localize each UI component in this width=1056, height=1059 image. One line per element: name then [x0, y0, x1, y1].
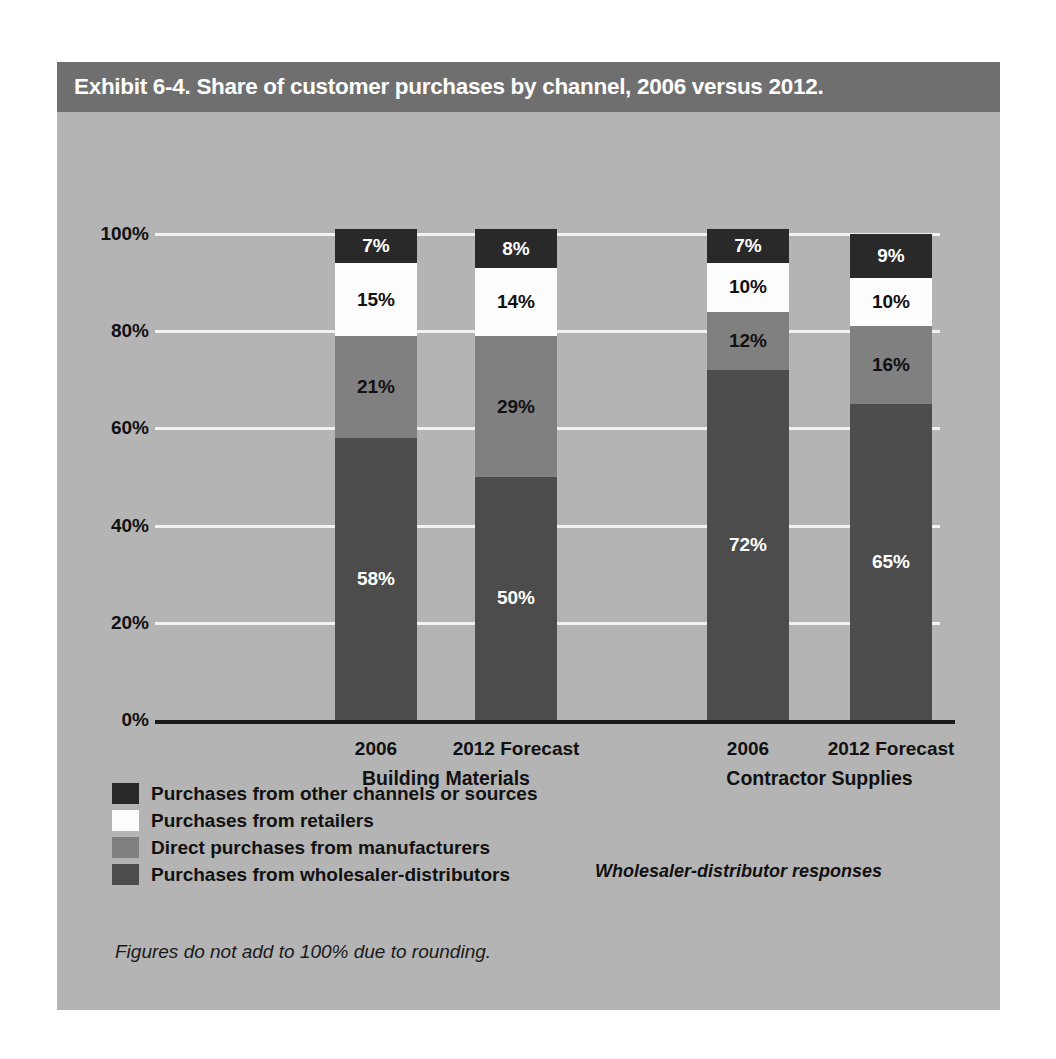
y-axis-tick-label: 100% — [79, 223, 149, 245]
bar-segment: 50% — [475, 477, 557, 720]
bar-segment: 15% — [335, 263, 417, 336]
bar-segment: 16% — [850, 326, 932, 404]
legend-swatch-icon — [112, 864, 139, 885]
legend-item: Direct purchases from manufacturers — [112, 834, 972, 861]
x-axis-category-label: 2006 — [727, 738, 769, 760]
x-axis-line — [155, 720, 955, 724]
bar-segment: 10% — [850, 278, 932, 327]
bar-segment-label: 29% — [497, 396, 535, 418]
bar-segment: 58% — [335, 438, 417, 720]
bar-segment-label: 9% — [877, 245, 904, 267]
bar-segment-label: 10% — [729, 276, 767, 298]
bar-segment: 29% — [475, 336, 557, 477]
y-axis-tick-label: 40% — [79, 515, 149, 537]
bar-segment: 9% — [850, 234, 932, 278]
y-axis-tick-label: 20% — [79, 612, 149, 634]
bar-segment: 21% — [335, 336, 417, 438]
x-axis-category-label: 2012 Forecast — [828, 738, 955, 760]
bar-segment: 12% — [707, 312, 789, 370]
bar-segment-label: 58% — [357, 568, 395, 590]
bar-segment: 8% — [475, 229, 557, 268]
legend-item-label: Purchases from retailers — [151, 810, 374, 832]
stacked-bar: 9%10%16%65% — [850, 234, 932, 720]
bar-segment: 7% — [707, 229, 789, 263]
bar-segment: 7% — [335, 229, 417, 263]
bar-segment-label: 7% — [734, 235, 761, 257]
page-title: Exhibit 6-4. Share of customer purchases… — [57, 74, 823, 100]
legend-item-label: Purchases from wholesaler-distributors — [151, 864, 510, 886]
bar-segment-label: 21% — [357, 376, 395, 398]
stacked-bar: 7%15%21%58% — [335, 229, 417, 720]
bar-segment: 72% — [707, 370, 789, 720]
legend-swatch-icon — [112, 810, 139, 831]
stacked-bar: 7%10%12%72% — [707, 229, 789, 720]
legend-item-label: Purchases from other channels or sources — [151, 783, 537, 805]
bar-segment-label: 16% — [872, 354, 910, 376]
chart-footnote: Figures do not add to 100% due to roundi… — [115, 941, 491, 963]
legend-item: Purchases from other channels or sources — [112, 780, 972, 807]
legend-item-label: Direct purchases from manufacturers — [151, 837, 490, 859]
y-axis-tick-label: 0% — [79, 709, 149, 731]
bar-segment: 10% — [707, 263, 789, 312]
bar-segment-label: 15% — [357, 289, 395, 311]
chart-legend: Purchases from other channels or sources… — [112, 780, 972, 888]
bar-segment-label: 7% — [362, 235, 389, 257]
bar-segment-label: 12% — [729, 330, 767, 352]
bar-segment-label: 50% — [497, 587, 535, 609]
bar-segment-label: 65% — [872, 551, 910, 573]
exhibit-panel: Exhibit 6-4. Share of customer purchases… — [57, 62, 1000, 1010]
responses-note: Wholesaler-distributor responses — [595, 861, 882, 882]
bar-segment-label: 14% — [497, 291, 535, 313]
bar-segment: 65% — [850, 404, 932, 720]
legend-swatch-icon — [112, 837, 139, 858]
bar-segment-label: 10% — [872, 291, 910, 313]
exhibit-title-bar: Exhibit 6-4. Share of customer purchases… — [57, 62, 1000, 112]
bar-segment-label: 8% — [502, 238, 529, 260]
stacked-bar: 8%14%29%50% — [475, 229, 557, 720]
x-axis-category-label: 2006 — [355, 738, 397, 760]
bar-segment: 14% — [475, 268, 557, 336]
legend-item: Purchases from retailers — [112, 807, 972, 834]
legend-swatch-icon — [112, 783, 139, 804]
x-axis-category-label: 2012 Forecast — [453, 738, 580, 760]
bar-segment-label: 72% — [729, 534, 767, 556]
y-axis-tick-label: 60% — [79, 417, 149, 439]
y-axis-tick-label: 80% — [79, 320, 149, 342]
